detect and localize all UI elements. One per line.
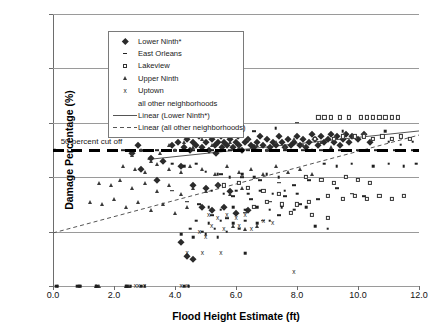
legend-label: Linear (Lower Ninth*)	[138, 111, 210, 120]
data-point	[377, 194, 381, 198]
data-point	[310, 172, 314, 176]
data-point	[170, 190, 174, 192]
data-point	[241, 173, 244, 176]
data-point	[88, 200, 92, 204]
data-point	[210, 214, 214, 216]
data-point	[237, 181, 241, 185]
data-point	[377, 115, 381, 119]
data-point	[56, 285, 59, 288]
data-point	[244, 252, 247, 255]
data-point	[319, 178, 323, 182]
data-point	[124, 205, 128, 209]
data-point	[216, 183, 220, 187]
data-point	[402, 194, 406, 198]
data-point	[223, 192, 226, 195]
data-point	[332, 181, 336, 185]
data-point	[210, 143, 214, 147]
legend-item: East Orleans	[112, 47, 239, 59]
x-tick-label: 4.0	[169, 290, 182, 300]
data-point	[344, 175, 348, 179]
data-point	[292, 137, 296, 141]
data-point	[179, 192, 183, 196]
data-point	[335, 165, 338, 168]
data-point: x	[225, 212, 228, 219]
data-point	[180, 233, 183, 236]
data-point	[271, 192, 274, 195]
data-point	[326, 228, 329, 231]
legend-marker-dashed-line	[112, 127, 138, 128]
data-point	[97, 181, 101, 185]
data-point	[283, 195, 287, 197]
data-point	[256, 206, 259, 209]
data-point	[188, 164, 192, 168]
data-point	[399, 143, 402, 146]
x-tick-mark	[175, 286, 176, 290]
data-point	[247, 192, 250, 195]
legend-label: Lakeview	[138, 61, 170, 70]
legend-item: Linear (all other neighborhoods)	[112, 122, 239, 134]
data-point	[268, 209, 271, 212]
data-point	[353, 194, 357, 198]
data-point: x	[250, 226, 253, 233]
data-point	[179, 170, 183, 174]
x-tick-mark	[236, 286, 237, 290]
legend-marker-solid-line	[112, 115, 138, 116]
plot-area: 0%20%40%60%80%100% 0.02.04.06.08.010.012…	[53, 14, 419, 286]
data-point	[359, 115, 363, 119]
data-point	[216, 236, 219, 239]
data-point	[341, 134, 345, 138]
data-point	[365, 115, 369, 119]
data-point	[189, 228, 192, 231]
data-point	[305, 206, 308, 209]
data-point	[207, 206, 210, 209]
data-point	[387, 141, 390, 144]
data-point	[143, 170, 147, 174]
data-point	[235, 190, 238, 193]
x-tick-label: 0.0	[47, 290, 60, 300]
data-point	[246, 186, 250, 190]
data-point	[277, 214, 281, 216]
legend-marker-filled-diamond	[112, 39, 138, 44]
data-point	[292, 185, 296, 187]
data-point	[232, 206, 235, 209]
data-point	[384, 130, 387, 133]
data-point: x	[292, 269, 295, 276]
data-point	[296, 192, 299, 195]
legend-marker-x: x	[112, 88, 138, 95]
data-point	[332, 137, 336, 141]
data-point	[265, 173, 268, 176]
legend-item: Linear (Lower Ninth*)	[112, 109, 239, 121]
data-point	[246, 137, 250, 141]
data-point	[130, 186, 134, 190]
data-point	[389, 137, 393, 141]
data-point	[253, 176, 256, 179]
data-point	[284, 190, 287, 193]
x-tick-label: 12.0	[410, 290, 428, 300]
data-point: x	[234, 215, 237, 222]
data-point	[232, 222, 235, 225]
legend-marker-open-square	[112, 64, 138, 68]
legend-item: all other neighborhoods	[112, 97, 239, 109]
data-point	[207, 222, 210, 225]
data-point	[415, 162, 418, 165]
data-point	[295, 122, 299, 124]
data-point	[185, 205, 189, 209]
data-point	[204, 233, 207, 236]
data-point	[310, 213, 314, 217]
data-point	[316, 115, 320, 119]
data-point	[307, 200, 311, 204]
legend-label: Linear (all other neighborhoods)	[138, 123, 246, 132]
data-point	[323, 162, 326, 165]
data-point	[133, 167, 137, 171]
x-tick-label: 8.0	[291, 290, 304, 300]
data-point	[259, 190, 262, 193]
data-point	[365, 197, 369, 201]
data-point	[167, 183, 171, 187]
data-point	[79, 285, 82, 288]
data-point	[264, 200, 268, 204]
data-point	[274, 140, 278, 144]
data-point	[136, 200, 140, 204]
x-tick-mark	[114, 286, 115, 290]
x-tick-label: 10.0	[349, 290, 367, 300]
data-point	[109, 183, 113, 187]
